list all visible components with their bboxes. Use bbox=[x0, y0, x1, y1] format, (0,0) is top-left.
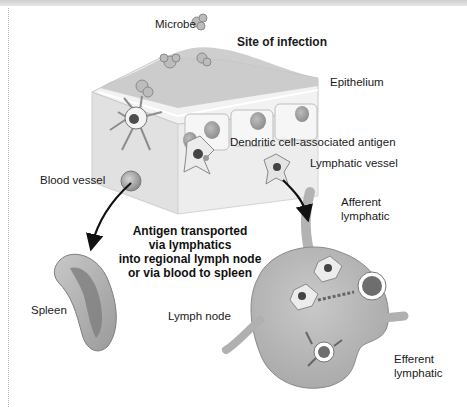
caption-line: Antigen transported bbox=[104, 224, 276, 238]
label-lymph-node: Lymph node bbox=[168, 310, 231, 323]
blood-vessel-icon bbox=[121, 171, 141, 191]
label-site-of-infection: Site of infection bbox=[237, 36, 327, 49]
label-afferent-lymphatic-2: lymphatic bbox=[341, 210, 390, 223]
caption-antigen-transport: Antigen transported via lymphatics into … bbox=[104, 224, 276, 280]
label-microbe: Microbe bbox=[155, 18, 196, 31]
label-spleen: Spleen bbox=[31, 304, 67, 317]
immune-antigen-transport-diagram bbox=[0, 0, 467, 407]
caption-line: or via blood to spleen bbox=[104, 266, 276, 280]
label-dendritic-cell-antigen: Dendritic cell-associated antigen bbox=[230, 136, 396, 149]
label-efferent-lymphatic-2: lymphatic bbox=[394, 367, 443, 380]
label-afferent-lymphatic-1: Afferent bbox=[341, 196, 381, 209]
label-epithelium: Epithelium bbox=[330, 76, 384, 89]
caption-line: into regional lymph node bbox=[104, 252, 276, 266]
label-lymphatic-vessel: Lymphatic vessel bbox=[310, 157, 398, 170]
label-blood-vessel: Blood vessel bbox=[40, 174, 105, 187]
label-efferent-lymphatic-1: Efferent bbox=[394, 353, 434, 366]
caption-line: via lymphatics bbox=[104, 238, 276, 252]
